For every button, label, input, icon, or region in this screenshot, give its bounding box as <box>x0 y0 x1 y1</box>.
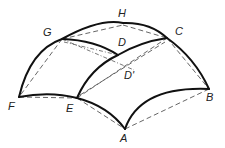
chord-g-f <box>19 39 62 97</box>
dashed-construction-lines <box>19 25 209 129</box>
curve-a-b <box>125 89 209 129</box>
label-c: C <box>175 25 183 37</box>
label-d-prime: D' <box>124 69 135 81</box>
label-d: D <box>118 36 126 48</box>
chord-g-h <box>62 25 123 39</box>
chord-c-b <box>167 38 209 89</box>
curved-surface-diagram: H G C D D' F E B A <box>0 0 225 148</box>
label-f: F <box>8 100 16 112</box>
chord-e-a <box>77 98 125 129</box>
label-a: A <box>119 132 127 144</box>
chord-f-e <box>19 97 77 98</box>
label-h: H <box>118 7 126 19</box>
label-e: E <box>66 102 74 114</box>
surface-edges <box>19 22 209 129</box>
label-b: B <box>206 91 213 103</box>
label-g: G <box>43 26 52 38</box>
